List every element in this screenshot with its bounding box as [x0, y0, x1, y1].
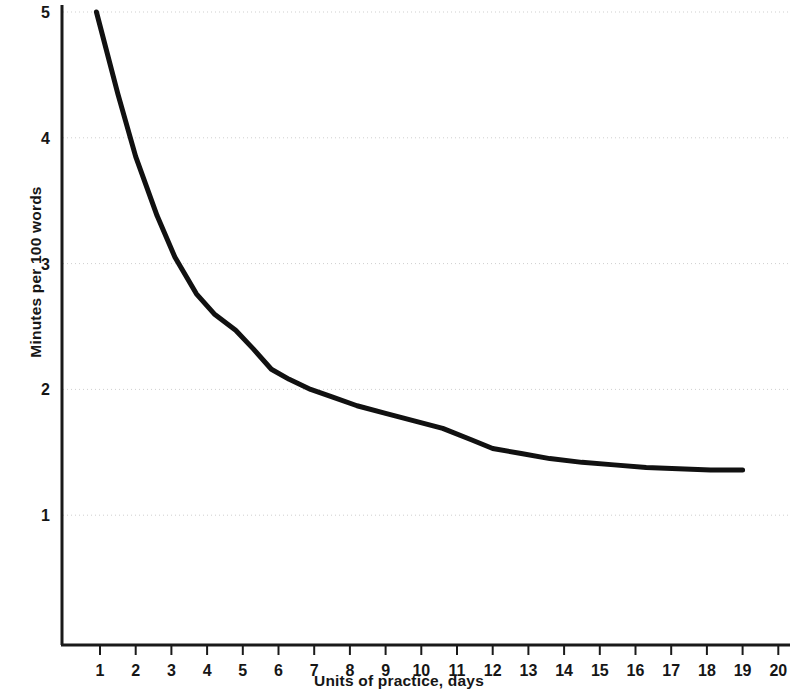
y-tick-label-3: 3	[41, 256, 50, 273]
gridlines-group	[63, 12, 790, 515]
y-tick-label-2: 2	[41, 381, 50, 398]
y-tick-label-4: 4	[41, 130, 50, 147]
y-axis-tick-labels-group: 12345	[41, 4, 50, 524]
chart-plot-area: 12345 1234567891011121314151617181920	[0, 0, 798, 700]
learning-curve-chart: 12345 1234567891011121314151617181920 Mi…	[0, 0, 798, 700]
x-axis-title-text: Units of practice, days	[314, 672, 484, 689]
x-axis-title: Units of practice, days	[0, 672, 798, 690]
y-tick-label-5: 5	[41, 4, 50, 21]
data-series-line	[96, 12, 742, 470]
y-tick-label-1: 1	[41, 507, 50, 524]
